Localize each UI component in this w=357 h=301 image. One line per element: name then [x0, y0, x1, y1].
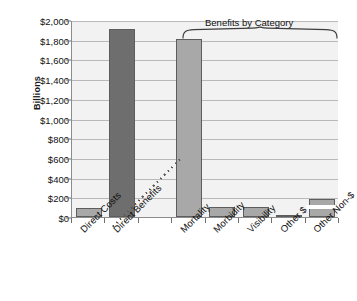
x-axis-tick-mark: [271, 218, 272, 223]
bar-series: [72, 21, 338, 217]
y-axis-tick-label: $1,200: [5, 94, 69, 105]
annotation-curly-brace-icon: [182, 27, 338, 39]
y-axis-tick-label: $600: [5, 153, 69, 164]
x-axis-tick-mark: [71, 218, 72, 223]
bar-slot: [172, 21, 205, 217]
y-axis-tick-label: $1,000: [5, 114, 69, 125]
plot-area: [71, 21, 338, 218]
bar-slot: [72, 21, 105, 217]
bar-slot: [206, 21, 239, 217]
y-axis-tick-label: $400: [5, 173, 69, 184]
y-axis-tick-label: $200: [5, 193, 69, 204]
x-axis-tick-mark: [138, 218, 139, 223]
bar-slot: [306, 21, 339, 217]
x-axis-tick-mark: [205, 218, 206, 223]
x-axis-tick-mark: [305, 218, 306, 223]
x-axis-tick-mark: [171, 218, 172, 223]
y-axis-tick-label: $800: [5, 134, 69, 145]
bar: [176, 39, 202, 217]
y-axis-tick-label: $1,400: [5, 75, 69, 86]
x-axis-tick-mark: [104, 218, 105, 223]
bar-slot: [105, 21, 138, 217]
bar-slot: [272, 21, 305, 217]
y-axis-tick-label: $1,600: [5, 55, 69, 66]
x-axis-tick-mark: [338, 218, 339, 223]
y-axis-tick-label: $1,800: [5, 35, 69, 46]
y-axis-tick-label: $0: [5, 213, 69, 224]
bar-slot: [239, 21, 272, 217]
y-axis-tick-label: $2,000: [5, 16, 69, 27]
bar: [109, 29, 135, 217]
x-axis-tick-mark: [238, 218, 239, 223]
